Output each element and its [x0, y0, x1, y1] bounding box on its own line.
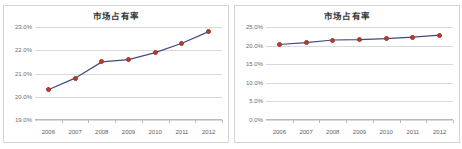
- chart-right: 市场占有率 0.0%5.0%10.0%15.0%20.0%25.0%200620…: [234, 5, 460, 143]
- x-axis-tick: [222, 120, 223, 123]
- y-axis-tick-label: 23.0%: [15, 24, 32, 30]
- x-axis-tick-label: 2010: [149, 129, 162, 136]
- series-line-left: [35, 27, 222, 120]
- data-point-marker: [330, 38, 335, 43]
- y-axis-tick-label: 5.0%: [249, 98, 263, 104]
- x-axis-tick: [400, 120, 401, 123]
- x-axis-tick-label: 2006: [273, 129, 286, 136]
- y-axis-tick-label: 21.0%: [15, 71, 32, 77]
- x-axis-tick: [62, 120, 63, 123]
- x-axis-tick-label: 2010: [380, 129, 393, 136]
- y-axis-tick-label: 19.0%: [15, 117, 32, 123]
- chart-left: 市场占有率 19.0%20.0%21.0%22.0%23.0%200620072…: [3, 5, 229, 143]
- data-point-marker: [304, 40, 309, 45]
- x-axis-tick-label: 2008: [326, 129, 339, 136]
- x-axis-tick: [373, 120, 374, 123]
- chart-left-title: 市场占有率: [4, 11, 228, 22]
- x-axis-tick: [453, 120, 454, 123]
- y-axis-tick-label: 22.0%: [15, 47, 32, 53]
- x-axis-tick: [195, 120, 196, 123]
- y-axis-tick-label: 10.0%: [246, 80, 263, 86]
- gridline: [266, 120, 453, 121]
- gridline: [35, 120, 222, 121]
- x-axis-tick-label: 2007: [68, 129, 81, 136]
- chart-right-title: 市场占有率: [235, 11, 459, 22]
- x-axis-tick: [88, 120, 89, 123]
- data-point-marker: [277, 42, 282, 47]
- y-axis-tick-label: 15.0%: [246, 61, 263, 67]
- y-axis-tick-label: 0.0%: [249, 117, 263, 123]
- x-axis-tick-label: 2009: [353, 129, 366, 136]
- x-axis-tick-label: 2011: [175, 129, 188, 136]
- x-axis-tick-label: 2006: [42, 129, 55, 136]
- data-point-marker: [153, 50, 158, 55]
- x-axis-tick-label: 2012: [202, 129, 215, 136]
- x-axis-tick-label: 2009: [122, 129, 135, 136]
- x-axis-tick: [346, 120, 347, 123]
- x-axis-tick-label: 2011: [406, 129, 419, 136]
- x-axis-tick: [426, 120, 427, 123]
- x-axis-tick: [293, 120, 294, 123]
- x-axis-tick: [319, 120, 320, 123]
- y-axis-tick-label: 20.0%: [15, 94, 32, 100]
- y-axis-tick-label: 25.0%: [246, 24, 263, 30]
- x-axis-tick-label: 2012: [433, 129, 446, 136]
- data-point-marker: [437, 33, 442, 38]
- data-point-marker: [73, 76, 78, 81]
- chart-left-plot-area: 19.0%20.0%21.0%22.0%23.0%200620072008200…: [35, 27, 222, 120]
- x-axis-tick: [169, 120, 170, 123]
- y-axis-tick-label: 20.0%: [246, 43, 263, 49]
- x-axis-tick-label: 2008: [95, 129, 108, 136]
- x-axis-tick: [115, 120, 116, 123]
- chart-pair-canvas: 市场占有率 19.0%20.0%21.0%22.0%23.0%200620072…: [0, 0, 462, 149]
- data-point-marker: [384, 36, 389, 41]
- x-axis-tick-label: 2007: [299, 129, 312, 136]
- chart-right-plot-area: 0.0%5.0%10.0%15.0%20.0%25.0%200620072008…: [266, 27, 453, 120]
- x-axis-tick: [142, 120, 143, 123]
